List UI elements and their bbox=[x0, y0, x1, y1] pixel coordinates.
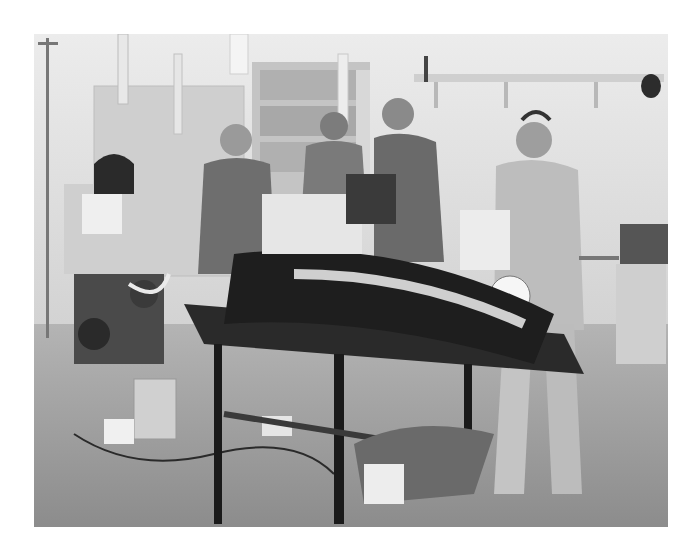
monitoring-cart bbox=[64, 154, 174, 364]
photo: Grayscale photo of a medical team workin… bbox=[34, 34, 668, 527]
scene-illustration bbox=[34, 34, 668, 527]
